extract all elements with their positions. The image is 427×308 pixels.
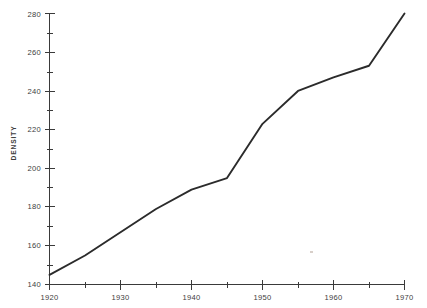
- data-series-line: [50, 14, 405, 275]
- y-tick-label: 200: [27, 164, 41, 173]
- y-axis-title: DENSITY: [10, 126, 17, 161]
- line-chart: 140 160 180 200 220 240 260 280 1920 193…: [0, 0, 427, 308]
- x-tick-label: 1960: [324, 293, 342, 302]
- y-tick-label: 220: [27, 125, 41, 134]
- x-axis-tick-labels: 1920 1930 1940 1950 1960 1970: [40, 293, 413, 302]
- x-tick-label: 1950: [253, 293, 271, 302]
- x-tick-label: 1930: [111, 293, 129, 302]
- y-tick-label: 260: [27, 48, 41, 57]
- chart-container: 140 160 180 200 220 240 260 280 1920 193…: [0, 0, 427, 308]
- scan-artifact-speck: [310, 251, 313, 253]
- y-tick-label: 280: [27, 10, 41, 19]
- y-tick-label: 140: [27, 280, 41, 289]
- x-tick-label: 1940: [182, 293, 200, 302]
- y-tick-label: 180: [27, 202, 41, 211]
- y-axis-tick-labels: 140 160 180 200 220 240 260 280: [27, 10, 41, 290]
- x-tick-label: 1970: [395, 293, 413, 302]
- x-tick-label: 1920: [40, 293, 58, 302]
- y-tick-label: 160: [27, 241, 41, 250]
- y-tick-label: 240: [27, 87, 41, 96]
